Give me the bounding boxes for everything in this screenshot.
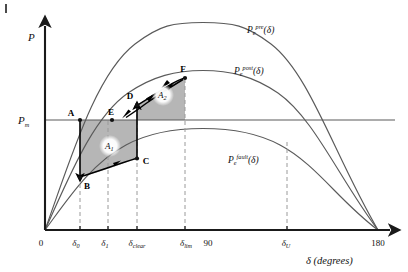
point-label-B: B: [84, 181, 90, 191]
point-label-F: F: [180, 64, 186, 74]
point-marker-F: [183, 76, 187, 80]
point-label-E: E: [108, 107, 114, 117]
xtick-label-delta0: δ0: [72, 238, 80, 249]
curve-label-post-fault: Pepost(δ): [233, 64, 264, 77]
xtick-label-origin: 0: [39, 238, 44, 248]
point-marker-D: [135, 103, 139, 107]
xtick-label-deltaU: δU: [282, 238, 291, 249]
equal-area-criterion-figure: A B C D E F A1 A2 Pepre(δ) Pepost(δ) Pef…: [0, 0, 408, 272]
xtick-label-oneeighty: 180: [371, 238, 385, 248]
xtick-label-deltalim: δlim: [180, 238, 193, 249]
curve-label-pre-fault: Pepre(δ): [246, 23, 274, 36]
point-marker-C: [135, 156, 139, 160]
curve-label-during-fault: Pefault(δ): [227, 153, 259, 166]
x-axis-title: δ (degrees): [306, 255, 353, 267]
point-label-A: A: [68, 108, 75, 118]
point-marker-B: [78, 175, 82, 179]
point-label-C: C: [143, 156, 150, 166]
xtick-label-ninety: 90: [204, 238, 214, 248]
xtick-label-delta1: δ1: [101, 238, 108, 249]
point-marker-A: [78, 118, 82, 122]
y-axis-label: P: [27, 31, 35, 43]
point-label-D: D: [127, 91, 134, 101]
xtick-label-deltaclear: δclear: [129, 238, 146, 249]
pm-axis-label: Pm: [17, 114, 30, 128]
point-marker-E: [110, 118, 114, 122]
